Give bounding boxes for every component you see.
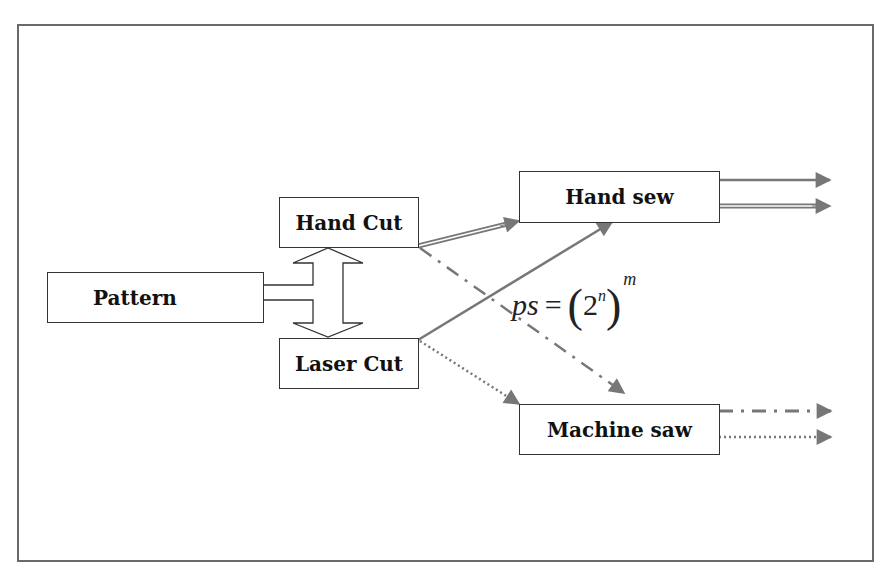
formula-outer-exponent: m	[623, 269, 636, 289]
node-hand-cut: Hand Cut	[279, 197, 419, 248]
edge-lasercut-machinesaw	[420, 341, 519, 404]
node-machine-saw-label: Machine saw	[547, 418, 692, 442]
formula: ps=(2n)m	[512, 270, 636, 329]
formula-close-paren: )	[606, 280, 621, 331]
node-hand-sew: Hand sew	[519, 171, 720, 223]
formula-inner-exponent: n	[598, 287, 606, 304]
formula-open-paren: (	[568, 280, 583, 331]
node-hand-cut-label: Hand Cut	[295, 211, 402, 235]
node-pattern: Pattern	[47, 272, 264, 323]
node-hand-sew-label: Hand sew	[565, 185, 674, 209]
node-laser-cut-label: Laser Cut	[295, 352, 403, 376]
node-laser-cut: Laser Cut	[279, 338, 419, 389]
formula-base: 2	[583, 288, 598, 321]
formula-equals: =	[545, 288, 562, 321]
edge-handcut-handsew	[418, 221, 519, 246]
formula-lhs: ps	[512, 288, 539, 321]
node-machine-saw: Machine saw	[519, 404, 720, 455]
node-pattern-label: Pattern	[93, 286, 177, 310]
hollow-double-arrow	[263, 248, 363, 337]
